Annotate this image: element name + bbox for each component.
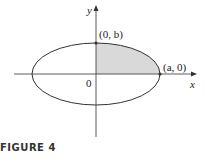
point-a0-label: (a, 0) bbox=[163, 61, 187, 74]
y-arrow-icon bbox=[94, 5, 99, 11]
x-arrow-icon bbox=[191, 72, 197, 77]
x-axis-label: x bbox=[189, 78, 195, 90]
origin-label: 0 bbox=[86, 77, 92, 89]
point-a0 bbox=[158, 72, 161, 75]
ellipse-diagram: y x 0 (0, b) (a, 0) bbox=[0, 0, 205, 164]
shaded-quarter bbox=[96, 43, 160, 74]
y-axis-label: y bbox=[86, 4, 92, 16]
point-0b-label: (0, b) bbox=[99, 28, 123, 41]
figure-caption: FIGURE 4 bbox=[0, 142, 56, 153]
point-0b bbox=[94, 41, 97, 44]
